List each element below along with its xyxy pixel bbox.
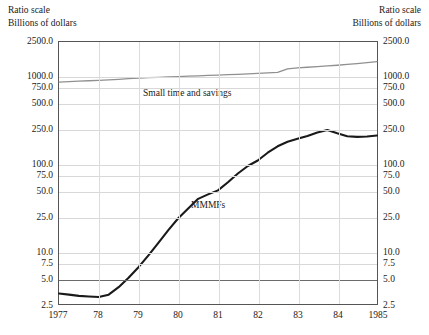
gridline-horizontal (59, 253, 377, 254)
gridline-vertical (259, 42, 260, 304)
left-caption-line-1: Ratio scale (8, 4, 77, 17)
gridline-horizontal (59, 104, 377, 105)
chart-page: Ratio scale Billions of dollars Ratio sc… (0, 0, 429, 335)
y-tick-label-left: 10.0 (36, 247, 53, 257)
y-tick-label-left: 500.0 (32, 98, 53, 108)
x-axis-ticks: 1977787980818283841985 (58, 310, 378, 328)
y-tick-label-right: 500.0 (383, 98, 404, 108)
gridline-horizontal (59, 176, 377, 177)
gridline-horizontal (59, 165, 377, 166)
y-axis-left-ticks: 2500.01000.0750.0500.0250.0100.075.050.0… (0, 41, 53, 305)
y-tick-label-right: 2.5 (383, 300, 395, 310)
y-tick-label-right: 5.0 (383, 274, 395, 284)
y-tick-label-left: 2.5 (41, 300, 53, 310)
y-axis-right-ticks: 2500.01000.0750.0500.0250.0100.075.050.0… (383, 41, 429, 305)
x-tick-label: 78 (93, 310, 103, 320)
gridline-horizontal (59, 264, 377, 265)
x-tick-label: 84 (333, 310, 343, 320)
gridline-vertical (299, 42, 300, 304)
gridline-vertical (179, 42, 180, 304)
left-caption-line-2: Billions of dollars (8, 17, 77, 30)
y-tick-label-right: 1000.0 (383, 71, 409, 81)
gridline-horizontal (59, 280, 377, 281)
y-tick-label-left: 1000.0 (27, 71, 53, 81)
gridline-vertical (339, 42, 340, 304)
y-tick-label-left: 2500.0 (27, 36, 53, 46)
gridline-horizontal (59, 88, 377, 89)
right-caption-line-2: Billions of dollars (352, 17, 421, 30)
right-axis-caption: Ratio scale Billions of dollars (352, 4, 421, 29)
y-tick-label-left: 5.0 (41, 274, 53, 284)
y-tick-label-left: 50.0 (36, 186, 53, 196)
plot-area: Small time and savings MMMFs (58, 41, 378, 305)
gridline-horizontal (59, 77, 377, 78)
gridline-vertical (99, 42, 100, 304)
y-tick-label-right: 10.0 (383, 247, 400, 257)
gridline-horizontal (59, 130, 377, 131)
y-tick-label-left: 100.0 (32, 159, 53, 169)
right-caption-line-1: Ratio scale (352, 4, 421, 17)
y-tick-label-left: 250.0 (32, 124, 53, 134)
gridline-vertical (139, 42, 140, 304)
y-tick-label-left: 25.0 (36, 212, 53, 222)
x-tick-label: 80 (173, 310, 183, 320)
x-tick-label: 81 (213, 310, 223, 320)
y-tick-label-right: 100.0 (383, 159, 404, 169)
x-tick-label: 82 (253, 310, 263, 320)
y-tick-label-right: 25.0 (383, 212, 400, 222)
y-tick-label-left: 75.0 (36, 170, 53, 180)
y-tick-label-right: 75.0 (383, 170, 400, 180)
x-tick-label: 1985 (369, 310, 388, 320)
y-tick-label-right: 250.0 (383, 124, 404, 134)
series-label-mmmfs: MMMFs (191, 200, 225, 210)
y-tick-label-right: 750.0 (383, 82, 404, 92)
gridline-horizontal (59, 218, 377, 219)
y-tick-label-left: 7.5 (41, 258, 53, 268)
left-axis-caption: Ratio scale Billions of dollars (8, 4, 77, 29)
y-tick-label-right: 7.5 (383, 258, 395, 268)
x-tick-label: 83 (293, 310, 303, 320)
x-tick-label: 1977 (49, 310, 68, 320)
gridline-horizontal (59, 192, 377, 193)
series-line-mmmfs (59, 130, 377, 297)
x-tick-label: 79 (133, 310, 143, 320)
y-tick-label-right: 50.0 (383, 186, 400, 196)
gridline-vertical (219, 42, 220, 304)
series-line-small-time-and-savings (59, 62, 377, 82)
y-tick-label-left: 750.0 (32, 82, 53, 92)
y-tick-label-right: 2500.0 (383, 36, 409, 46)
